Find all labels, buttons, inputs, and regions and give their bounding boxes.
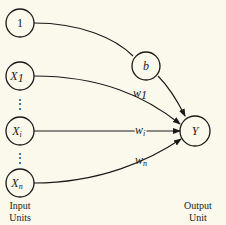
- weight-wn-label: wn: [135, 153, 147, 168]
- output-caption-line2: Unit: [178, 212, 218, 224]
- input-node-xn-label: Xn: [10, 176, 22, 191]
- output-node-label: Y: [192, 124, 200, 138]
- input-node-xi-label: Xi: [11, 124, 22, 139]
- input-caption-line2: Units: [2, 212, 38, 224]
- output-caption-line1: Output: [178, 200, 218, 212]
- bias-node-label: b: [143, 59, 149, 73]
- edge-1-to-b: [34, 23, 133, 56]
- input-units-caption: Input Units: [2, 200, 38, 224]
- ellipsis-bottom: ⋮: [14, 151, 26, 165]
- weight-w1-label: w1: [133, 86, 147, 102]
- edge-x1-to-y: [34, 76, 180, 124]
- perceptron-diagram: 1 X1 ⋮ Xi ⋮ Xn b Y w1 wi wn: [0, 0, 226, 225]
- input-caption-line1: Input: [2, 200, 38, 212]
- ellipsis-top: ⋮: [14, 97, 26, 111]
- edge-b-to-y: [158, 76, 185, 116]
- input-node-x1-label: X1: [9, 69, 23, 85]
- edge-xn-to-y: [34, 139, 181, 183]
- input-node-1-label: 1: [17, 16, 23, 30]
- weight-wi-label: wi: [135, 123, 145, 138]
- output-unit-caption: Output Unit: [178, 200, 218, 224]
